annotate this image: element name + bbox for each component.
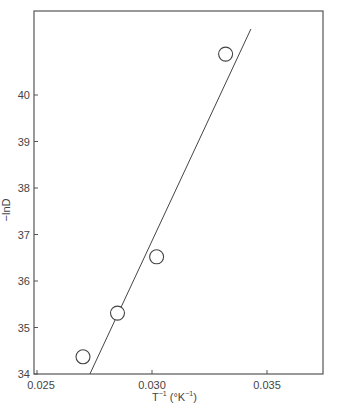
y-tick-label: 37 (18, 229, 30, 241)
data-point-circle (150, 250, 164, 264)
x-axis-title: T−1 (°K−1) (152, 390, 197, 403)
plot-frame (34, 11, 323, 374)
data-point-circle (111, 306, 125, 320)
data-point-circle (76, 350, 90, 364)
y-tick-label: 40 (18, 89, 30, 101)
chart: 0.0250.0300.035 34353637383940 T−1 (°K−1… (0, 0, 339, 411)
regression-line (90, 29, 251, 374)
y-tick-label: 34 (18, 368, 30, 380)
y-tick-label: 39 (18, 136, 30, 148)
y-tick-label: 38 (18, 182, 30, 194)
x-tick-label: 0.025 (27, 379, 55, 391)
y-tick-label: 36 (18, 275, 30, 287)
fit-line (90, 29, 251, 374)
y-tick-label: 35 (18, 322, 30, 334)
x-axis-ticks: 0.0250.0300.035 (27, 370, 281, 391)
y-axis-title: −lnD (0, 198, 12, 221)
y-axis-ticks: 34353637383940 (18, 89, 38, 380)
data-point-circle (219, 47, 233, 61)
data-points (76, 47, 233, 364)
x-tick-label: 0.035 (253, 379, 281, 391)
